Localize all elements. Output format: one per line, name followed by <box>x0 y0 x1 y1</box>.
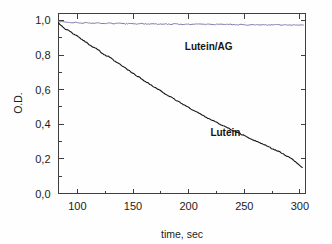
chart-figure: 100150200250300 0,00,20,40,60,81,0 Lutei… <box>0 0 332 244</box>
x-tick-label: 250 <box>235 200 253 212</box>
annotation-lutein-ag: Lutein/AG <box>185 41 233 52</box>
x-tick-label: 200 <box>179 200 197 212</box>
y-tick-label: 1,0 <box>35 14 50 26</box>
y-axis-title: O.D. <box>12 92 24 114</box>
y-tick-label: 0,0 <box>35 188 50 200</box>
y-tick-label: 0,2 <box>35 153 50 165</box>
x-tick-label: 100 <box>68 200 86 212</box>
annotation-lutein: Lutein <box>210 127 240 138</box>
x-axis-title: time, sec <box>161 228 203 240</box>
x-tick-label: 150 <box>124 200 142 212</box>
y-tick-label: 0,4 <box>35 118 50 130</box>
x-tick-label: 300 <box>291 200 309 212</box>
od-vs-time-line-chart: 100150200250300 0,00,20,40,60,81,0 Lutei… <box>0 0 332 244</box>
y-tick-label: 0,6 <box>35 84 50 96</box>
y-tick-label: 0,8 <box>35 49 50 61</box>
